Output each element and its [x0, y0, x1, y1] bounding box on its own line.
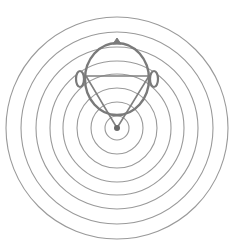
- sound-source: [114, 125, 120, 131]
- right-ear-icon: [150, 71, 158, 87]
- left-ear-icon: [76, 71, 84, 87]
- sound-localization-diagram: [0, 0, 235, 249]
- diagram-canvas: [0, 0, 235, 249]
- nose-icon: [113, 38, 121, 44]
- sound-source-dot: [114, 125, 120, 131]
